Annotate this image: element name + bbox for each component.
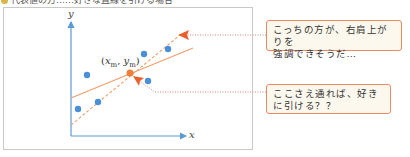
arrowhead-2-icon: [133, 76, 144, 86]
data-point: [75, 106, 81, 112]
callout-text-line: こっちの方が、右肩上がりを: [273, 24, 395, 48]
data-point: [141, 51, 147, 57]
data-point: [165, 46, 171, 52]
data-point: [145, 78, 151, 84]
callout-text-line: に引ける？？: [273, 100, 384, 112]
y-axis-label: y: [68, 8, 74, 19]
mean-y-sub: m: [129, 61, 136, 69]
callout-text-line: 強調できそうだ…: [273, 48, 395, 60]
x-axis-label: x: [189, 129, 195, 140]
data-point: [84, 72, 90, 78]
dashed-line: [71, 35, 180, 125]
arrowhead-1-icon: [178, 30, 189, 40]
data-point: [95, 99, 101, 105]
paren-close: ): [136, 55, 140, 66]
callout-text-line: ここさえ通れば、好き: [273, 88, 384, 100]
leader-line-2: [138, 80, 266, 92]
mean-point-label: (xm, ym): [101, 55, 140, 69]
callout-steeper-line: こっちの方が、右肩上がりを 強調できそうだ…: [266, 20, 402, 51]
callout-mean-point: ここさえ通れば、好き に引ける？？: [266, 84, 391, 114]
mean-point: [127, 70, 134, 77]
